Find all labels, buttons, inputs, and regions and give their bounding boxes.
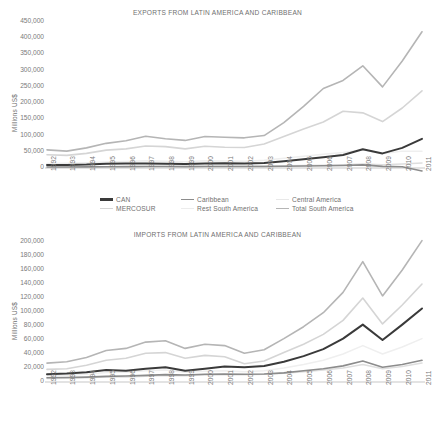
imports-x-tick: 1996 (129, 370, 136, 385)
legend-item[interactable]: Total South America (276, 205, 354, 212)
exports-x-tick: 1995 (109, 156, 116, 171)
exports-x-tick: 2002 (247, 156, 254, 171)
legend-item-label: Caribbean (197, 196, 229, 203)
imports-x-tick: 2011 (425, 370, 432, 385)
imports-x-tick: 2004 (286, 370, 293, 385)
imports-x-tick: 1999 (188, 370, 195, 385)
exports-x-tick: 1999 (188, 156, 195, 171)
imports-x-tick: 2008 (365, 370, 372, 385)
exports-chart-panel: EXPORTS FROM LATIN AMERICA AND CARIBBEAN… (0, 0, 435, 222)
imports-chart-panel: IMPORTS FROM LATIN AMERICA AND CARIBBEAN… (0, 222, 435, 423)
exports-x-tick: 2003 (267, 156, 274, 171)
legend-item[interactable]: Central America (276, 196, 341, 203)
imports-x-tick: 2002 (247, 370, 254, 385)
exports-x-tick: 1994 (89, 156, 96, 171)
imports-x-tick: 2006 (326, 370, 333, 385)
legend-line-icon (181, 208, 194, 209)
imports-x-tick: 2001 (227, 370, 234, 385)
exports-x-tick: 1996 (129, 156, 136, 171)
exports-x-tick: 1998 (168, 156, 175, 171)
imports-x-tick: 2003 (267, 370, 274, 385)
legend-item[interactable]: Rest South America (181, 205, 258, 212)
legend-item[interactable]: MERCOSUR (100, 205, 156, 212)
exports-x-tick: 2001 (227, 156, 234, 171)
legend-line-icon (276, 208, 289, 210)
legend-line-icon (100, 198, 113, 200)
imports-x-tick: 1998 (168, 370, 175, 385)
exports-x-tick: 1992 (50, 156, 57, 171)
legend-item-label: Central America (292, 196, 341, 203)
legend-item-label: CAN (116, 196, 130, 203)
exports-x-tick: 2000 (207, 156, 214, 171)
exports-x-tick: 2010 (405, 156, 412, 171)
exports-plot-area (0, 0, 435, 172)
imports-x-tick: 2007 (346, 370, 353, 385)
exports-x-tick: 2005 (306, 156, 313, 171)
exports-x-tick: 2008 (365, 156, 372, 171)
legend-line-icon (100, 208, 113, 210)
imports-x-tick: 1992 (50, 370, 57, 385)
exports-x-tick: 2009 (385, 156, 392, 171)
exports-series-total-south-america (47, 32, 422, 151)
exports-x-tick: 2011 (425, 156, 432, 171)
exports-x-tick: 2006 (326, 156, 333, 171)
imports-plot-area (0, 222, 435, 386)
legend-item[interactable]: CAN (100, 196, 130, 203)
exports-x-tick: 1997 (148, 156, 155, 171)
exports-x-tick: 1993 (69, 156, 76, 171)
legend-item-label: MERCOSUR (116, 205, 156, 212)
imports-x-tick: 1997 (148, 370, 155, 385)
imports-x-tick: 1995 (109, 370, 116, 385)
imports-x-tick: 2005 (306, 370, 313, 385)
legend-line-icon (276, 199, 289, 200)
chart-page: EXPORTS FROM LATIN AMERICA AND CARIBBEAN… (0, 0, 435, 423)
imports-x-tick: 1994 (89, 370, 96, 385)
exports-series-mercosur (47, 91, 422, 156)
imports-x-tick: 2009 (385, 370, 392, 385)
legend-item-label: Rest South America (197, 205, 258, 212)
exports-x-tick: 2007 (346, 156, 353, 171)
legend-item-label: Total South America (292, 205, 354, 212)
exports-x-tick: 2004 (286, 156, 293, 171)
imports-x-tick: 1993 (69, 370, 76, 385)
legend-line-icon (181, 199, 194, 201)
imports-x-tick: 2010 (405, 370, 412, 385)
imports-x-tick: 2000 (207, 370, 214, 385)
legend-item[interactable]: Caribbean (181, 196, 229, 203)
